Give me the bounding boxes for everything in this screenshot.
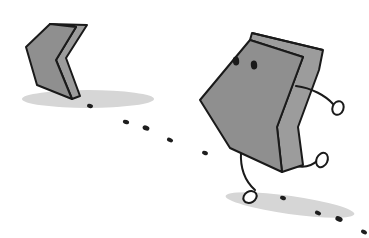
footprint-trail xyxy=(87,103,209,156)
static-chevron xyxy=(26,24,87,99)
walking-chevron-character xyxy=(200,33,323,172)
scene-svg xyxy=(0,0,369,238)
illustration xyxy=(0,0,369,238)
character-hand xyxy=(330,100,345,117)
